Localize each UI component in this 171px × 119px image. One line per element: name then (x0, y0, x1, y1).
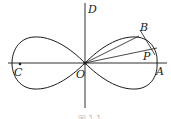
ray-OB (85, 36, 139, 63)
label-C: C (14, 66, 23, 79)
figure-caption: 图 1.1 (78, 115, 101, 119)
point-C (19, 63, 22, 66)
lemniscate-diagram: D B P C O A 图 1.1 (0, 0, 171, 119)
label-O: O (76, 68, 85, 81)
point-O (83, 61, 86, 64)
label-P: P (142, 50, 151, 63)
label-A: A (155, 65, 164, 78)
label-B: B (139, 21, 148, 34)
label-D: D (87, 3, 97, 16)
